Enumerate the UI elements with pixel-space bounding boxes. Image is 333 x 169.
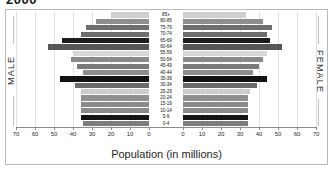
age-group-label: 30-34 (149, 82, 183, 88)
bar-male-10-14 (81, 108, 149, 113)
x-axis-tick-label: 0 (141, 131, 157, 137)
bar-male-80-85 (96, 19, 149, 24)
bar-male-60-64 (48, 44, 149, 49)
x-axis-tick (297, 127, 298, 130)
bar-female-30-34 (183, 83, 257, 88)
bar-male-85+ (111, 12, 149, 17)
x-axis-tick (278, 127, 279, 130)
x-axis-tick-label: 10 (122, 131, 138, 137)
x-axis-tick (240, 127, 241, 130)
bar-female-70-74 (183, 32, 267, 37)
x-axis-tick-label: 50 (46, 131, 62, 137)
x-axis-tick-label: 30 (84, 131, 100, 137)
bar-male-55-59 (73, 51, 149, 56)
age-group-label: 25-29 (149, 89, 183, 95)
x-axis-tick-label: 60 (289, 131, 305, 137)
x-axis-tick-label: 40 (251, 131, 267, 137)
bar-male-0-4 (83, 121, 150, 126)
x-axis-tick (54, 127, 55, 130)
x-axis-tick-label: 40 (65, 131, 81, 137)
bar-female-15-19 (183, 102, 248, 107)
female-bar-row (183, 114, 316, 120)
x-axis-tick (316, 127, 317, 130)
bar-male-5-9 (81, 115, 149, 120)
bar-male-25-29 (81, 89, 149, 94)
gridline (316, 12, 317, 127)
bar-male-35-39 (60, 76, 149, 81)
x-axis-tick (149, 127, 150, 130)
x-axis-tick-label: 50 (270, 131, 286, 137)
bar-female-10-14 (183, 108, 248, 113)
bar-female-45-49 (183, 64, 259, 69)
bar-female-25-29 (183, 89, 250, 94)
bar-male-75-79 (86, 25, 149, 30)
female-bar-row (183, 25, 316, 31)
female-bar-row (183, 12, 316, 18)
x-axis-tick-label: 60 (27, 131, 43, 137)
age-group-label: 65-69 (149, 38, 183, 44)
male-bar-row (16, 25, 149, 31)
bar-female-5-9 (183, 115, 248, 120)
x-axis-tick (16, 127, 17, 130)
x-axis-tick (221, 127, 222, 130)
male-bar-row (16, 114, 149, 120)
male-bar-row (16, 108, 149, 114)
x-axis-title: Population (in millions) (0, 148, 333, 160)
x-axis-tick-label: 0 (175, 131, 191, 137)
age-group-axis: 85+80-8575-7970-7465-6960-6455-5950-5445… (149, 12, 183, 127)
age-group-label: 20-24 (149, 95, 183, 101)
male-bar-row (16, 63, 149, 69)
bar-female-40-44 (183, 70, 253, 75)
bar-male-15-19 (81, 102, 149, 107)
male-bar-row (16, 101, 149, 107)
female-bar-row (183, 63, 316, 69)
chart-page: 2000 MALE FEMALE 85+80-8575-7970-7465-69… (0, 0, 333, 169)
male-label-rule-bottom (13, 96, 14, 126)
bar-male-40-44 (83, 70, 150, 75)
male-bar-row (16, 82, 149, 88)
bar-male-50-54 (71, 57, 149, 62)
x-axis-tick-label: 10 (194, 131, 210, 137)
bar-female-0-4 (183, 121, 248, 126)
plot-area: 85+80-8575-7970-7465-6960-6455-5950-5445… (16, 12, 316, 127)
x-axis-tick (111, 127, 112, 130)
x-axis-tick-label: 20 (213, 131, 229, 137)
female-bar-row (183, 57, 316, 63)
female-bar-row (183, 38, 316, 44)
x-axis-tick (202, 127, 203, 130)
female-bar-row (183, 50, 316, 56)
age-group-label: 75-79 (149, 25, 183, 31)
male-bar-row (16, 50, 149, 56)
female-bar-row (183, 18, 316, 24)
x-axis-tick-label: 70 (308, 131, 324, 137)
bar-female-50-54 (183, 57, 263, 62)
female-bar-row (183, 44, 316, 50)
male-bar-row (16, 18, 149, 24)
bar-female-85+ (183, 12, 246, 17)
bar-female-35-39 (183, 76, 267, 81)
male-bar-row (16, 57, 149, 63)
male-panel (16, 12, 149, 127)
bar-female-20-24 (183, 95, 248, 100)
x-axis-tick (183, 127, 184, 130)
bar-female-65-69 (183, 38, 270, 43)
female-bar-row (183, 101, 316, 107)
bar-male-30-34 (75, 83, 149, 88)
bar-male-45-49 (77, 64, 149, 69)
female-bar-row (183, 31, 316, 37)
female-label-rule-bottom (318, 99, 319, 126)
male-bar-row (16, 70, 149, 76)
male-label-rule-top (13, 16, 14, 44)
male-bar-row (16, 12, 149, 18)
age-group-label: 10-14 (149, 108, 183, 114)
age-group-label: 80-85 (149, 18, 183, 24)
x-axis-tick (35, 127, 36, 130)
x-axis-tick (73, 127, 74, 130)
x-axis-tick-label: 30 (232, 131, 248, 137)
female-bar-row (183, 76, 316, 82)
male-bar-row (16, 44, 149, 50)
age-group-label: 85+ (149, 12, 183, 18)
female-bar-row (183, 108, 316, 114)
male-bar-row (16, 95, 149, 101)
bar-male-70-74 (81, 32, 149, 37)
